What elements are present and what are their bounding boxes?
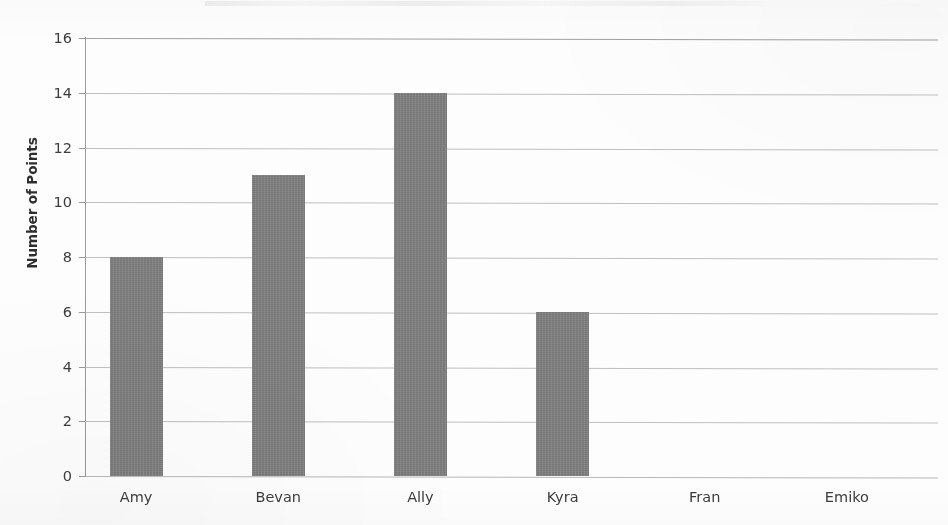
x-axis-label: Fran — [689, 489, 720, 505]
x-axis-labels: AmyBevanAllyKyraFranEmiko — [85, 489, 938, 515]
y-tick-label: 4 — [0, 359, 72, 375]
plot-area — [85, 38, 938, 476]
y-tick-label: 14 — [0, 85, 72, 101]
y-tick-label: 2 — [0, 413, 72, 429]
x-axis-label: Bevan — [255, 489, 301, 505]
x-axis-label: Kyra — [547, 489, 579, 505]
y-tick-label: 6 — [0, 304, 72, 320]
bar — [536, 312, 589, 476]
x-axis-label: Emiko — [825, 489, 869, 505]
x-axis-label: Ally — [407, 489, 434, 505]
bar-series — [85, 38, 938, 476]
gridline — [85, 476, 938, 478]
x-axis-label: Amy — [120, 489, 153, 505]
bar-chart-screenshot: Number of Points 1614121086420 AmyBevanA… — [0, 0, 948, 525]
y-axis-title: Number of Points — [24, 103, 40, 303]
y-tick-label: 0 — [0, 468, 72, 484]
bar — [394, 93, 447, 476]
bar — [252, 175, 305, 476]
cropped-title-sliver — [205, 1, 765, 6]
bar — [110, 257, 163, 476]
y-tick-label: 16 — [0, 30, 72, 46]
